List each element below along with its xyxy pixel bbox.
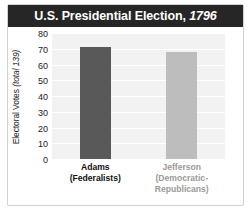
gridline xyxy=(52,128,225,129)
y-tick-label: 70 xyxy=(26,45,48,54)
chart-title-bar: U.S. Presidential Election, 1796 xyxy=(8,5,243,27)
gridline xyxy=(52,65,225,66)
page-title: U.S. Presidential Election, 1796 xyxy=(34,9,216,23)
y-axis-title-total: (total 139) xyxy=(11,50,21,87)
bar-adams xyxy=(80,47,111,159)
category-label-jefferson: Jefferson (Democratic- Republicans) xyxy=(139,162,226,195)
gridline xyxy=(52,96,225,97)
gridline xyxy=(52,112,225,113)
y-tick-label: 0 xyxy=(26,156,48,165)
y-tick-label: 80 xyxy=(26,30,48,39)
gridline xyxy=(52,80,225,81)
y-tick-label: 40 xyxy=(26,93,48,102)
x-axis-category-labels: Adams (Federalists) Jefferson (Democrati… xyxy=(52,162,225,208)
plot-area xyxy=(52,33,225,159)
y-axis-title-main: Electoral Votes xyxy=(11,89,21,144)
bar-jefferson xyxy=(166,52,197,159)
y-tick-label: 60 xyxy=(26,61,48,70)
gridline xyxy=(52,49,225,50)
category-party-jefferson-line2: Republicans) xyxy=(139,184,226,195)
y-tick-label: 50 xyxy=(26,77,48,86)
category-party-adams: (Federalists) xyxy=(52,173,139,184)
y-axis-tick-labels: 01020304050607080 xyxy=(26,33,48,161)
title-year: 1796 xyxy=(189,9,216,23)
gridline xyxy=(52,143,225,144)
category-name-jefferson: Jefferson xyxy=(162,162,201,172)
category-name-adams: Adams xyxy=(81,162,110,172)
category-label-adams: Adams (Federalists) xyxy=(52,162,139,184)
y-tick-label: 10 xyxy=(26,140,48,149)
category-party-jefferson-line1: (Democratic- xyxy=(139,173,226,184)
title-main: U.S. Presidential Election, xyxy=(34,9,186,23)
y-tick-label: 20 xyxy=(26,124,48,133)
gridline xyxy=(52,33,225,34)
y-axis-title: Electoral Votes (total 139) xyxy=(8,33,24,161)
y-tick-label: 30 xyxy=(26,108,48,117)
chart-figure: U.S. Presidential Election, 1796 Elector… xyxy=(0,0,251,214)
